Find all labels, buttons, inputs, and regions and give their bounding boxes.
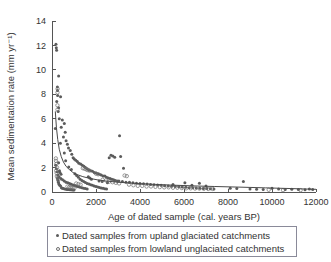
figure-container: 02468101214020004000600080001000012000Ag…	[0, 0, 331, 262]
y-tick-label: 2	[41, 163, 46, 173]
data-point	[56, 104, 59, 107]
series-upland	[54, 43, 314, 192]
y-axis-title: Mean sedimentation rate (mm yr⁻¹)	[5, 32, 16, 180]
data-point	[67, 147, 70, 150]
x-tick-label: 6000	[174, 197, 194, 207]
data-point	[64, 131, 67, 134]
data-point	[59, 184, 62, 187]
data-point	[63, 122, 66, 125]
y-tick-label: 4	[41, 138, 46, 148]
x-tick-label: 12000	[303, 197, 328, 207]
data-point	[55, 100, 58, 103]
legend-item-upland: Dated samples from upland glaciated catc…	[53, 229, 296, 242]
data-point	[108, 156, 111, 159]
data-point	[141, 184, 144, 187]
filled-circle-icon	[53, 234, 62, 237]
x-tick-label: 4000	[130, 197, 150, 207]
data-point	[136, 184, 139, 187]
data-point	[69, 149, 72, 152]
data-point	[70, 153, 73, 156]
x-tick-label: 2000	[86, 197, 106, 207]
series-lowland	[54, 87, 302, 192]
y-tick-label: 8	[41, 89, 46, 99]
data-point	[183, 181, 186, 184]
legend-label-lowland: Dated samples from lowland unglaciated c…	[62, 242, 284, 255]
data-point	[105, 188, 108, 191]
data-point	[65, 139, 68, 142]
y-tick-label: 12	[36, 41, 46, 51]
data-point	[62, 136, 65, 139]
data-point	[262, 188, 265, 191]
y-tick-label: 0	[41, 187, 46, 197]
data-point	[123, 174, 126, 177]
data-point	[255, 188, 258, 191]
data-point	[59, 142, 62, 145]
x-axis-title: Age of dated sample (cal. years BP)	[108, 211, 260, 222]
data-point	[113, 156, 116, 159]
data-point	[122, 167, 125, 170]
data-point	[118, 134, 121, 137]
y-tick-label: 10	[36, 65, 46, 75]
data-point	[119, 155, 122, 158]
data-point	[198, 182, 201, 185]
data-point	[58, 117, 61, 120]
chart-legend: Dated samples from upland glaciated catc…	[47, 226, 297, 257]
y-tick-label: 6	[41, 114, 46, 124]
data-point	[64, 159, 67, 162]
x-tick-label: 0	[49, 197, 54, 207]
regression-curve	[55, 111, 316, 189]
y-tick-label: 14	[36, 16, 46, 26]
axes-group	[52, 21, 316, 192]
open-circle-icon	[53, 247, 62, 251]
data-point	[86, 187, 89, 190]
data-point	[125, 174, 128, 177]
data-point	[57, 74, 60, 77]
data-point	[242, 180, 245, 183]
legend-label-upland: Dated samples from upland glaciated catc…	[62, 229, 270, 242]
data-point	[59, 95, 62, 98]
data-point	[66, 143, 69, 146]
data-point	[60, 173, 63, 176]
data-point	[60, 126, 63, 129]
data-point	[79, 183, 82, 186]
data-point	[63, 151, 66, 154]
data-point	[54, 43, 57, 46]
data-point	[267, 188, 270, 191]
data-series-group	[54, 43, 314, 192]
x-tick-label: 10000	[259, 197, 284, 207]
data-point	[75, 182, 78, 185]
data-point	[61, 118, 64, 121]
x-tick-label: 8000	[218, 197, 238, 207]
legend-item-lowland: Dated samples from lowland unglaciated c…	[53, 242, 296, 255]
fit-curve-group	[55, 111, 316, 189]
data-point	[154, 185, 157, 188]
data-point	[55, 49, 58, 52]
scatter-plot: 02468101214020004000600080001000012000Ag…	[0, 0, 331, 262]
